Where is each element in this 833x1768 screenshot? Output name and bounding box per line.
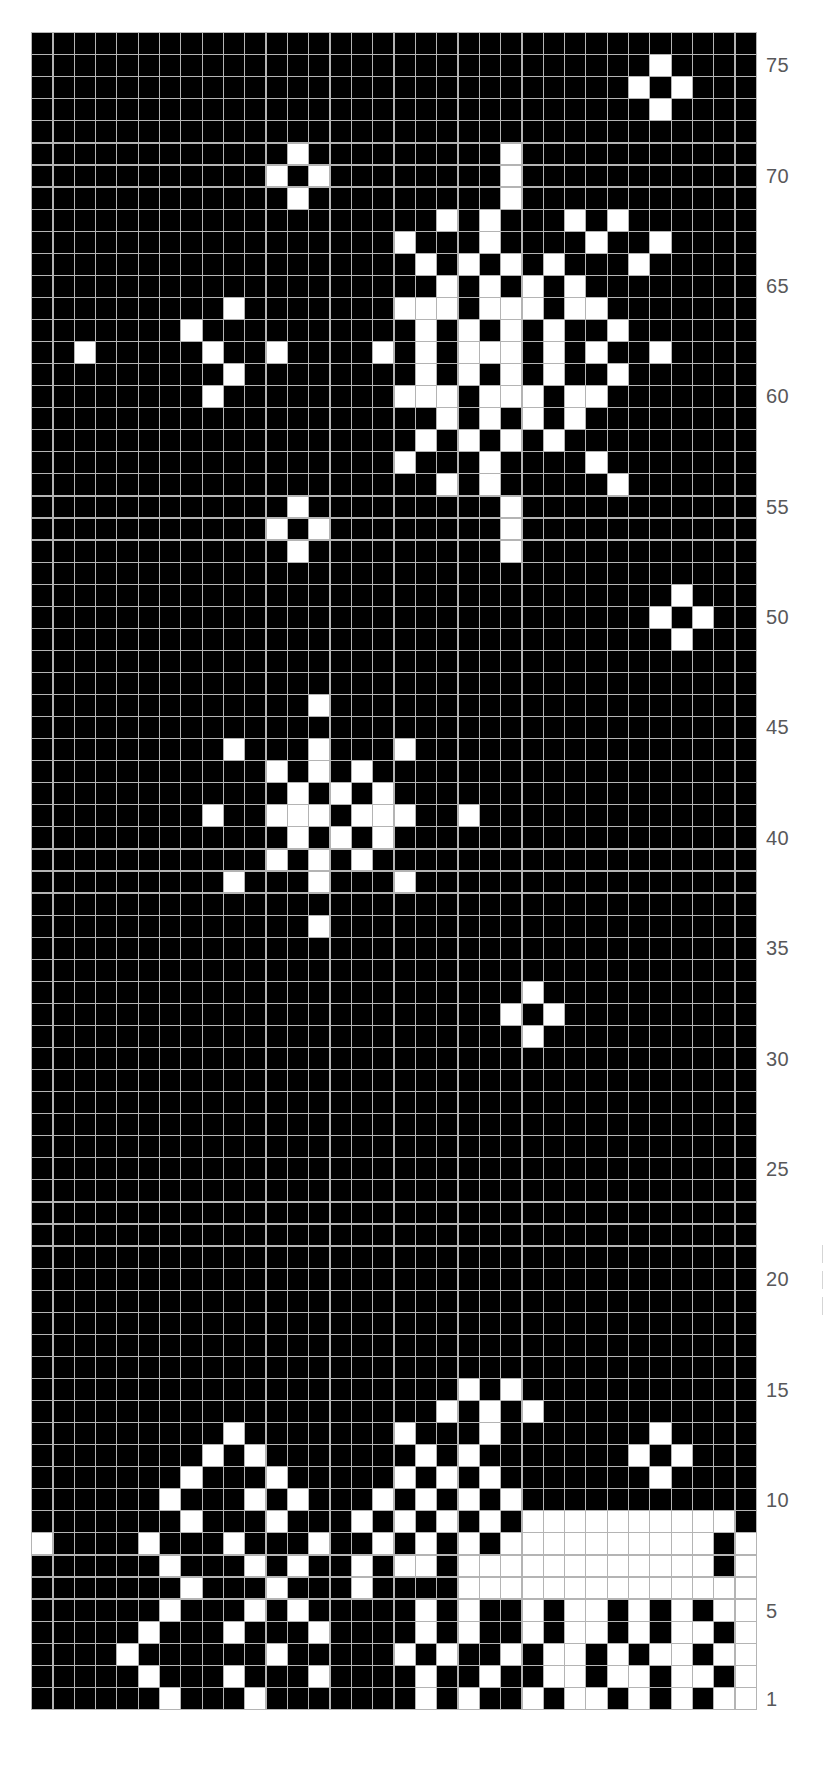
stitch-cell[interactable] [480,1048,500,1069]
stitch-cell[interactable] [523,541,543,562]
stitch-cell[interactable] [139,408,159,429]
stitch-cell[interactable] [650,55,670,76]
stitch-cell[interactable] [714,1158,734,1179]
stitch-cell[interactable] [75,1533,95,1554]
stitch-cell[interactable] [544,364,564,385]
stitch-cell[interactable] [416,541,436,562]
stitch-cell[interactable] [75,77,95,98]
stitch-cell[interactable] [501,960,521,981]
stitch-cell[interactable] [160,695,180,716]
stitch-cell[interactable] [480,77,500,98]
stitch-cell[interactable] [352,33,372,54]
stitch-cell[interactable] [267,497,287,518]
stitch-cell[interactable] [608,386,628,407]
stitch-cell[interactable] [608,673,628,694]
stitch-cell[interactable] [160,761,180,782]
stitch-cell[interactable] [416,1511,436,1532]
stitch-cell[interactable] [331,99,351,120]
stitch-cell[interactable] [480,1092,500,1113]
stitch-cell[interactable] [416,1578,436,1599]
stitch-cell[interactable] [672,99,692,120]
stitch-cell[interactable] [54,629,74,650]
stitch-cell[interactable] [586,1622,606,1643]
stitch-cell[interactable] [459,1114,479,1135]
stitch-cell[interactable] [352,1203,372,1224]
stitch-cell[interactable] [117,99,137,120]
stitch-cell[interactable] [267,607,287,628]
stitch-cell[interactable] [586,783,606,804]
stitch-cell[interactable] [224,232,244,253]
stitch-cell[interactable] [523,386,543,407]
stitch-cell[interactable] [309,386,329,407]
stitch-cell[interactable] [693,629,713,650]
stitch-cell[interactable] [586,1048,606,1069]
stitch-cell[interactable] [395,1225,415,1246]
stitch-cell[interactable] [203,1004,223,1025]
stitch-cell[interactable] [288,298,308,319]
stitch-cell[interactable] [309,938,329,959]
stitch-cell[interactable] [523,166,543,187]
stitch-cell[interactable] [245,1158,265,1179]
stitch-cell[interactable] [672,563,692,584]
stitch-cell[interactable] [736,673,756,694]
stitch-cell[interactable] [139,850,159,871]
stitch-cell[interactable] [672,452,692,473]
stitch-cell[interactable] [203,872,223,893]
stitch-cell[interactable] [373,121,393,142]
stitch-cell[interactable] [480,1291,500,1312]
stitch-cell[interactable] [523,1644,543,1665]
stitch-cell[interactable] [75,1026,95,1047]
stitch-cell[interactable] [181,298,201,319]
stitch-cell[interactable] [96,210,116,231]
stitch-cell[interactable] [160,408,180,429]
stitch-cell[interactable] [714,805,734,826]
stitch-cell[interactable] [373,320,393,341]
stitch-cell[interactable] [650,938,670,959]
stitch-cell[interactable] [714,1644,734,1665]
stitch-cell[interactable] [331,497,351,518]
stitch-cell[interactable] [736,850,756,871]
stitch-cell[interactable] [267,1600,287,1621]
stitch-cell[interactable] [650,607,670,628]
stitch-cell[interactable] [459,1048,479,1069]
stitch-cell[interactable] [523,739,543,760]
stitch-cell[interactable] [416,872,436,893]
stitch-cell[interactable] [416,695,436,716]
stitch-cell[interactable] [181,408,201,429]
stitch-cell[interactable] [608,1666,628,1687]
stitch-cell[interactable] [75,33,95,54]
stitch-cell[interactable] [139,1511,159,1532]
stitch-cell[interactable] [32,99,52,120]
stitch-cell[interactable] [32,805,52,826]
stitch-cell[interactable] [437,1203,457,1224]
stitch-cell[interactable] [672,33,692,54]
stitch-cell[interactable] [245,1203,265,1224]
stitch-cell[interactable] [459,1489,479,1510]
stitch-cell[interactable] [395,1070,415,1091]
stitch-cell[interactable] [96,166,116,187]
stitch-cell[interactable] [288,541,308,562]
stitch-cell[interactable] [96,1291,116,1312]
stitch-cell[interactable] [160,1225,180,1246]
stitch-cell[interactable] [395,850,415,871]
stitch-cell[interactable] [352,364,372,385]
stitch-cell[interactable] [117,1004,137,1025]
stitch-cell[interactable] [267,1379,287,1400]
stitch-cell[interactable] [160,1203,180,1224]
stitch-cell[interactable] [480,1313,500,1334]
stitch-cell[interactable] [139,1048,159,1069]
stitch-cell[interactable] [501,1136,521,1157]
stitch-cell[interactable] [96,320,116,341]
stitch-cell[interactable] [586,938,606,959]
stitch-cell[interactable] [736,1600,756,1621]
stitch-cell[interactable] [331,166,351,187]
stitch-cell[interactable] [288,1666,308,1687]
stitch-cell[interactable] [672,298,692,319]
stitch-cell[interactable] [139,1004,159,1025]
stitch-cell[interactable] [459,33,479,54]
stitch-cell[interactable] [629,563,649,584]
stitch-cell[interactable] [54,99,74,120]
stitch-cell[interactable] [459,452,479,473]
stitch-cell[interactable] [480,916,500,937]
stitch-cell[interactable] [714,276,734,297]
